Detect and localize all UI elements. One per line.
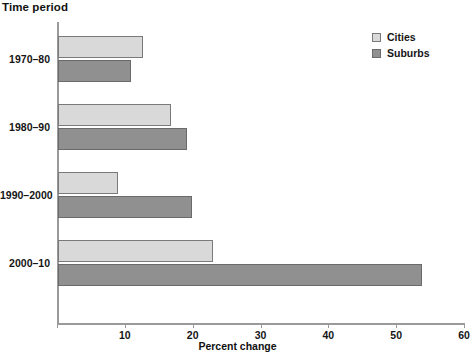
legend-swatch-suburbs-icon [372,49,381,58]
x-axis-title: Percent change [0,340,475,352]
legend-label-cities: Cities [387,31,416,43]
chart-legend: Cities Suburbs [372,30,430,62]
legend-item-suburbs: Suburbs [372,46,430,60]
x-tick-40 [328,323,329,328]
legend-swatch-cities-icon [372,33,381,42]
x-tick-20 [193,323,194,328]
bar-cities-1970-80 [58,36,143,58]
x-tick-0 [57,323,58,328]
bar-suburbs-1970-80 [58,60,131,82]
x-tick-30 [261,323,262,328]
bar-chart: Time period 102030405060 1970–801980–901… [0,0,475,361]
bar-suburbs-1980-90 [58,128,187,150]
category-label-0: 1970–80 [0,53,50,65]
category-label-3: 2000–10 [0,257,50,269]
plot-area: 102030405060 [57,22,464,323]
x-tick-10 [125,323,126,328]
legend-label-suburbs: Suburbs [387,47,430,59]
bar-cities-1990-2000 [58,172,118,194]
bar-suburbs-1990-2000 [58,196,192,218]
category-label-1: 1980–90 [0,121,50,133]
bar-cities-2000-10 [58,240,213,262]
category-label-2: 1990–2000 [0,189,50,201]
legend-item-cities: Cities [372,30,430,44]
y-axis-title: Time period [2,1,68,13]
x-tick-60 [464,323,465,328]
x-tick-50 [396,323,397,328]
bar-suburbs-2000-10 [58,264,422,286]
bar-cities-1980-90 [58,104,171,126]
